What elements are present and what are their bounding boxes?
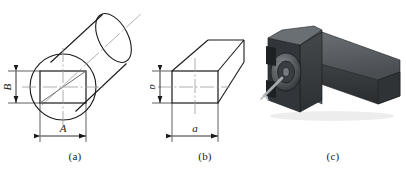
dimension-a-label: A [59,122,67,134]
prism-face-centerlines [158,58,230,116]
cylinder-top-edge [51,15,103,63]
dimension-b: B [1,72,16,104]
photo-shadow [270,111,394,121]
dimension-a: A [41,122,87,136]
recess-upper [266,46,276,66]
panel-b-drawing: a b [150,0,260,150]
dimension-a-lower: a [173,122,219,136]
figure-root: A B (a) [0,0,406,174]
panel-b-prism: a b [150,0,260,174]
prism-body [172,40,244,103]
dimension-a-lower-label: a [192,122,198,134]
caption-c: (c) [260,150,406,162]
panel-c-photo [260,0,406,174]
head-block-front-face [300,32,322,112]
cylinder-far-ellipse [88,8,138,68]
tool-holder-photo [260,0,406,150]
caption-a: (a) [0,150,150,162]
caption-b: (b) [150,150,260,162]
dimension-b-label: B [1,83,13,90]
panel-a-drawing: A B [0,0,150,150]
panel-a-cylinder: A B [0,0,150,174]
dimension-b-lower-label: b [150,84,157,90]
